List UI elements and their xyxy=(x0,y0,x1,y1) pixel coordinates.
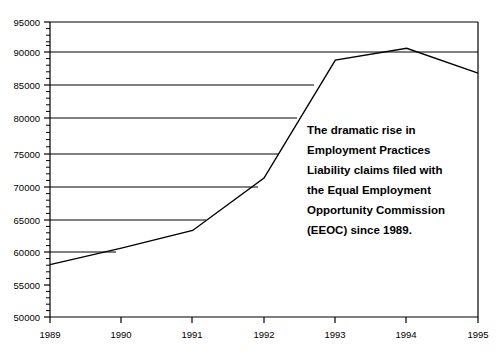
x-axis-labels: 1989 1990 1991 1992 1993 1994 1995 xyxy=(39,329,488,340)
ytick-label-85000: 85000 xyxy=(14,80,40,91)
xtick-label-1989: 1989 xyxy=(39,329,60,340)
xtick-label-1991: 1991 xyxy=(181,329,202,340)
chart-canvas: 95000 90000 85000 80000 75000 70000 6500… xyxy=(0,0,502,354)
ytick-label-75000: 75000 xyxy=(14,149,40,160)
annotation-line-6: (EEOC) since 1989. xyxy=(307,224,412,236)
xtick-label-1995: 1995 xyxy=(467,329,488,340)
xtick-label-1990: 1990 xyxy=(110,329,131,340)
ytick-label-55000: 55000 xyxy=(14,280,40,291)
x-ticks xyxy=(50,317,478,323)
annotation-line-2: Employment Practices xyxy=(307,144,430,156)
ytick-label-65000: 65000 xyxy=(14,215,40,226)
annotation-line-4: the Equal Employment xyxy=(307,184,431,196)
y-major-ticks xyxy=(44,22,50,317)
ytick-label-90000: 90000 xyxy=(14,47,40,58)
annotation-line-3: Liability claims filed with xyxy=(307,164,442,176)
xtick-label-1992: 1992 xyxy=(253,329,274,340)
ytick-label-70000: 70000 xyxy=(14,182,40,193)
annotation-line-1: The dramatic rise in xyxy=(307,124,416,136)
ytick-label-95000: 95000 xyxy=(14,17,40,28)
ytick-label-80000: 80000 xyxy=(14,113,40,124)
y-axis-labels: 95000 90000 85000 80000 75000 70000 6500… xyxy=(14,17,40,323)
annotation-line-5: Opportunity Commission xyxy=(307,204,445,216)
xtick-label-1993: 1993 xyxy=(324,329,345,340)
ytick-label-50000: 50000 xyxy=(14,312,40,323)
ytick-label-60000: 60000 xyxy=(14,247,40,258)
xtick-label-1994: 1994 xyxy=(395,329,416,340)
line-chart: 95000 90000 85000 80000 75000 70000 6500… xyxy=(0,0,502,354)
